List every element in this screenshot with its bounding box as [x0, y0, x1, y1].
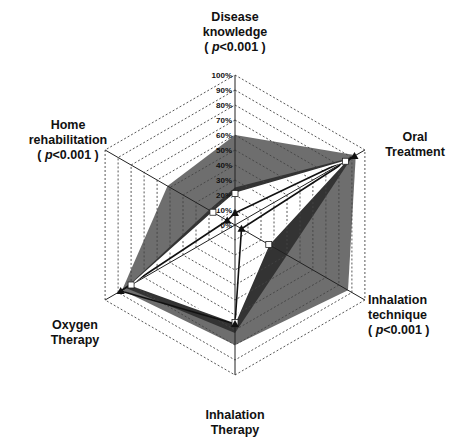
label-line: Home	[18, 118, 118, 133]
radial-tick-label: 100%	[212, 71, 232, 80]
square-marker	[210, 209, 216, 215]
radial-tick-label: 40%	[216, 161, 232, 170]
label-line: technique	[368, 308, 448, 323]
axis-label-inhalation-therapy: Inhalation Therapy	[190, 408, 280, 438]
label-line: Treatment	[380, 145, 450, 160]
label-line: Inhalation	[190, 408, 280, 423]
p-value: ( p<0.001 )	[190, 40, 280, 55]
p-value: ( p<0.001 )	[368, 323, 448, 338]
label-line: Therapy	[40, 333, 110, 348]
axis-label-home-rehabilitation: Home rehabilitation ( p<0.001 )	[18, 118, 118, 163]
label-line: Oral	[380, 130, 450, 145]
label-line: Oxygen	[40, 318, 110, 333]
label-line: rehabilitation	[18, 133, 118, 148]
p-value: ( p<0.001 )	[18, 148, 118, 163]
radial-tick-label: 70%	[216, 116, 232, 125]
radar-chart: 0%10%20%30%40%50%60%70%80%90%100%	[0, 0, 453, 448]
radial-tick-label: 60%	[216, 131, 232, 140]
square-marker	[128, 282, 134, 288]
label-line: knowledge	[190, 25, 280, 40]
axis-label-inhalation-technique: Inhalation technique ( p<0.001 )	[368, 293, 448, 338]
square-marker	[342, 158, 348, 164]
radial-tick-label: 30%	[216, 176, 232, 185]
square-marker	[232, 191, 238, 197]
label-line: Disease	[190, 10, 280, 25]
axis-label-oxygen-therapy: Oxygen Therapy	[40, 318, 110, 348]
radial-tick-label: 80%	[216, 101, 232, 110]
radial-tick-label: 90%	[216, 86, 232, 95]
label-line: Inhalation	[368, 293, 448, 308]
axis-label-disease-knowledge: Disease knowledge ( p<0.001 )	[190, 10, 280, 55]
square-marker	[266, 242, 272, 248]
axis-label-oral-treatment: Oral Treatment	[380, 130, 450, 160]
label-line: Therapy	[190, 423, 280, 438]
radial-tick-label: 50%	[216, 146, 232, 155]
